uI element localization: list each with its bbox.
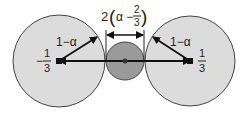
left-center-label-numerator: 1 — [44, 47, 50, 59]
left-center-label-sign: − — [36, 54, 43, 68]
width-label-denominator: 3 — [134, 17, 140, 28]
middle-center-point — [123, 59, 128, 64]
right-radius-label: 1−α — [170, 35, 191, 49]
width-label-alpha: α − — [116, 10, 133, 24]
width-label-numerator: 2 — [134, 4, 140, 15]
width-label-open-paren: ( — [109, 6, 116, 27]
left-radius-label: 1−α — [56, 35, 77, 49]
three-circles-diagram: 1−α 1−α − 1 3 1 3 2 ( α − 2 3 ) — [0, 0, 247, 115]
width-label-close-paren: ) — [141, 6, 147, 27]
width-label-prefix: 2 — [101, 9, 108, 24]
left-center-label-denominator: 3 — [44, 62, 50, 74]
right-center-label-numerator: 1 — [199, 47, 205, 59]
right-center-label-denominator: 3 — [199, 62, 205, 74]
